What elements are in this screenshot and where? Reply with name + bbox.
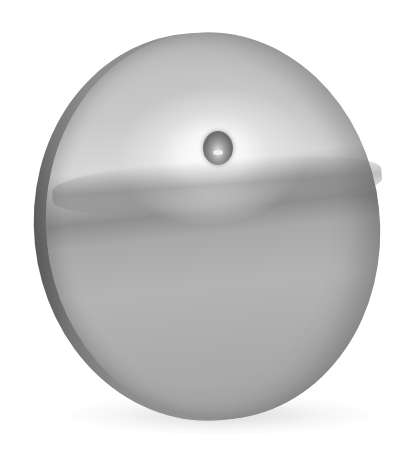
hole-glint <box>213 150 223 155</box>
disc-face <box>27 16 400 437</box>
center-hole <box>203 131 233 165</box>
product-photo <box>0 0 411 462</box>
